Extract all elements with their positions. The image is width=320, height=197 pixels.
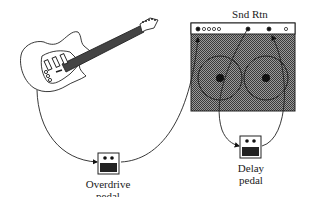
amp-return-jack: [267, 27, 271, 31]
guitar-icon: [21, 18, 159, 92]
overdrive-label-line1: Overdrive: [78, 178, 138, 190]
cable-guitar-to-overdrive: [37, 90, 97, 162]
overdrive-pedal-icon: [98, 153, 119, 174]
cable-overdrive-to-amp: [121, 38, 198, 162]
delay-label-line2: pedal: [221, 174, 281, 186]
delay-label-line1: Delay: [221, 162, 281, 174]
send-return-label: Snd Rtn: [225, 8, 275, 20]
delay-label: Delay pedal: [221, 162, 281, 186]
overdrive-label-line2: pedal: [78, 190, 138, 197]
amp-input-jack: [196, 27, 200, 31]
amplifier-icon: [191, 23, 295, 111]
overdrive-label: Overdrive pedal: [78, 178, 138, 197]
delay-pedal-icon: [240, 136, 261, 158]
